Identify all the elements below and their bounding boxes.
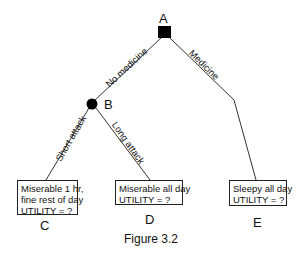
outcome-box-d: Miserable all day UTILITY = ? <box>115 180 183 205</box>
node-label-a: A <box>159 12 168 25</box>
chance-node-circle-icon <box>87 99 98 110</box>
decision-node-square-icon <box>158 26 171 38</box>
node-label-b: B <box>104 98 113 111</box>
outcome-d-line-2: UTILITY = ? <box>119 194 179 205</box>
node-label-d: D <box>145 213 154 226</box>
edge-a-e <box>170 38 256 180</box>
outcome-box-e: Sleepy all day UTILITY = ? <box>229 180 287 206</box>
outcome-e-line-2: UTILITY = ? <box>233 194 283 205</box>
outcome-c-line-3: UTILITY = ? <box>21 205 74 216</box>
outcome-box-c: Miserable 1 hr, fine rest of day UTILITY… <box>17 180 78 215</box>
outcome-d-line-1: Miserable all day <box>119 183 179 194</box>
figure-caption: Figure 3.2 <box>0 232 302 246</box>
node-label-c: C <box>40 219 49 232</box>
node-label-e: E <box>253 216 262 229</box>
outcome-c-line-1: Miserable 1 hr, <box>21 183 74 194</box>
outcome-c-line-2: fine rest of day <box>21 194 74 205</box>
outcome-e-line-1: Sleepy all day <box>233 183 283 194</box>
